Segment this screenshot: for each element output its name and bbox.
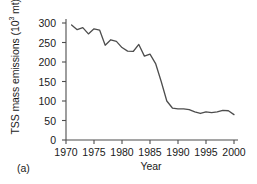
y-axis-tick-label: 100 [24, 96, 56, 107]
x-axis-label: Year [66, 160, 236, 172]
y-axis-label-exponent: 3 [8, 17, 15, 21]
x-axis-tick-label: 2000 [214, 147, 254, 158]
chart-figure: TSS mass emissions (103 mt) Year (a) 050… [0, 0, 257, 184]
y-axis-tick-label: 250 [24, 38, 56, 49]
data-series-line [72, 25, 234, 115]
panel-label: (a) [17, 162, 30, 174]
y-axis-tick-label: 50 [24, 116, 56, 127]
y-axis-label-suffix: mt) [9, 0, 21, 17]
y-axis-label: TSS mass emissions (103 mt) [10, 3, 21, 135]
y-axis-tick-label: 150 [24, 77, 56, 88]
y-axis-tick-label: 200 [24, 57, 56, 68]
y-axis-tick-label: 300 [24, 18, 56, 29]
y-axis-label-prefix: TSS mass emissions (10 [9, 21, 21, 135]
y-axis-tick-label: 0 [24, 135, 56, 146]
